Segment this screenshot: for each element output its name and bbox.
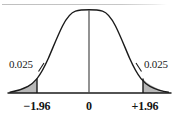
x-tick-label-negative: −1.96 xyxy=(10,99,64,114)
x-tick-label-positive: +1.96 xyxy=(116,99,174,114)
tail-area-label-left: 0.025 xyxy=(9,58,33,70)
shaded-tail-right xyxy=(143,79,169,93)
leader-line-right xyxy=(136,63,142,72)
x-tick-label-zero: 0 xyxy=(76,99,102,114)
tail-area-label-right: 0.025 xyxy=(144,58,168,70)
normal-distribution-figure: 0.025 0.025 −1.96 0 +1.96 xyxy=(0,0,179,118)
